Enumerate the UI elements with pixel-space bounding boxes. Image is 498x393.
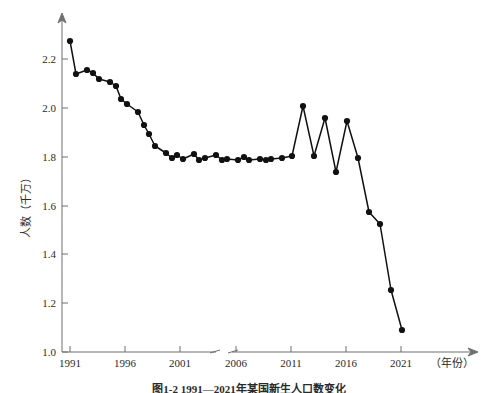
data-point — [107, 79, 113, 85]
data-point — [84, 67, 90, 73]
figure-root: 2.2 2.0 1.8 1.6 1.4 1.2 1.0 人数（千万） — [0, 0, 498, 393]
y-tick-label-2-2: 2.2 — [42, 53, 56, 65]
data-point — [377, 221, 383, 227]
data-point — [141, 122, 147, 128]
data-series — [67, 38, 405, 333]
x-tick-label-1991: 1991 — [59, 357, 81, 369]
data-point — [163, 150, 169, 156]
data-point — [191, 151, 197, 157]
line-chart: 2.2 2.0 1.8 1.6 1.4 1.2 1.0 人数（千万） — [0, 0, 498, 393]
data-point — [118, 96, 124, 102]
data-point — [311, 153, 317, 159]
data-point — [67, 38, 73, 44]
data-point — [268, 156, 274, 162]
x-tick-label-2006: 2006 — [225, 357, 248, 369]
data-point — [333, 169, 339, 175]
axis-break-marker — [210, 350, 238, 353]
data-point — [279, 155, 285, 161]
data-point — [344, 118, 350, 124]
x-tick-label-2001: 2001 — [169, 357, 191, 369]
series-markers — [67, 38, 405, 333]
x-axis-title: （年份） — [430, 356, 474, 369]
data-point — [213, 152, 219, 158]
data-point — [246, 157, 252, 163]
y-tick-label-1-0: 1.0 — [42, 346, 56, 358]
data-point — [289, 153, 295, 159]
data-point — [366, 209, 372, 215]
data-point — [355, 155, 361, 161]
y-tick-label-2-0: 2.0 — [42, 102, 56, 114]
data-point — [300, 103, 306, 109]
y-tick-label-1-8: 1.8 — [42, 151, 56, 163]
data-point — [135, 109, 141, 115]
data-point — [224, 156, 230, 162]
y-tick-label-1-6: 1.6 — [42, 200, 56, 212]
data-point — [113, 83, 119, 89]
y-axis-title: 人数（千万） — [20, 172, 32, 238]
y-tick-label-1-2: 1.2 — [42, 297, 56, 309]
y-axis: 2.2 2.0 1.8 1.6 1.4 1.2 1.0 人数（千万） — [20, 13, 68, 358]
x-axis: 1991 1996 2001 2006 2011 2016 2021 （年份） — [59, 346, 478, 369]
x-tick-label-2016: 2016 — [335, 357, 358, 369]
data-point — [180, 156, 186, 162]
data-point — [90, 70, 96, 76]
x-tick-label-1996: 1996 — [114, 357, 137, 369]
data-point — [174, 152, 180, 158]
data-point — [235, 157, 241, 163]
y-tick-label-1-4: 1.4 — [42, 248, 56, 260]
data-point — [399, 327, 405, 333]
data-point — [152, 143, 158, 149]
series-line — [70, 41, 402, 330]
data-point — [196, 157, 202, 163]
data-point — [96, 76, 102, 82]
data-point — [202, 155, 208, 161]
figure-caption: 图1-2 1991—2021年某国新生人口数变化 — [0, 382, 498, 393]
data-point — [73, 71, 79, 77]
data-point — [146, 131, 152, 137]
x-tick-label-2011: 2011 — [280, 357, 302, 369]
x-tick-label-2021: 2021 — [390, 357, 412, 369]
data-point — [124, 101, 130, 107]
data-point — [322, 115, 328, 121]
data-point — [257, 156, 263, 162]
data-point — [388, 287, 394, 293]
